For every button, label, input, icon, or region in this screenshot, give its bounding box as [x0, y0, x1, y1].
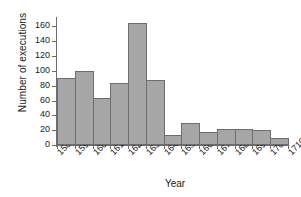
histogram-bar [270, 138, 289, 145]
y-axis-tick-mark [52, 130, 56, 131]
y-axis-tick-mark [52, 56, 56, 57]
y-axis-tick-label: 160 [35, 20, 50, 30]
y-axis-tick-label: 100 [35, 65, 50, 75]
histogram-bar [146, 80, 165, 145]
histogram-bar [57, 78, 76, 145]
histogram-bar [93, 98, 112, 145]
x-axis-title: Year [57, 178, 293, 189]
y-axis-tick-label: 60 [40, 95, 50, 105]
y-axis-tick-label: 40 [40, 109, 50, 119]
histogram-bar [75, 71, 94, 145]
histogram-bar [235, 129, 254, 145]
histogram-bar [164, 135, 183, 145]
histogram-bar [181, 123, 200, 145]
histogram-bar [128, 23, 147, 145]
y-axis-tick-mark [52, 86, 56, 87]
y-axis-tick-label: 120 [35, 50, 50, 60]
histogram-bar [199, 132, 218, 145]
y-axis-tick-mark [52, 71, 56, 72]
y-axis-tick-mark [52, 145, 56, 146]
y-axis-tick-label: 20 [40, 124, 50, 134]
histogram-bar [110, 83, 129, 145]
histogram-bar [252, 130, 271, 145]
plot-area [57, 19, 288, 145]
y-axis-tick-mark [52, 41, 56, 42]
y-axis-tick-label: 140 [35, 35, 50, 45]
y-axis-tick-label: 80 [40, 80, 50, 90]
y-axis-tick-mark [52, 26, 56, 27]
histogram-figure: Number of executions 0204060801001201401… [0, 0, 301, 197]
y-axis-tick-mark [52, 101, 56, 102]
y-axis-tick-mark [52, 115, 56, 116]
y-axis-tick-label: 0 [45, 139, 50, 149]
histogram-bar [217, 129, 236, 145]
y-axis-title: Number of executions [17, 0, 28, 131]
